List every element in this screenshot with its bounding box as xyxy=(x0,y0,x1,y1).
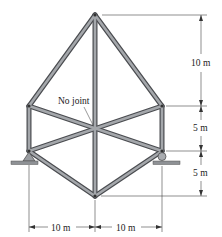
truss-members xyxy=(29,15,162,196)
joint-upper-left xyxy=(27,104,30,107)
truss-diagram: No joint 10 m 5 m 5 m xyxy=(0,0,222,237)
no-joint-label: No joint xyxy=(58,96,90,106)
joint-upper-right xyxy=(160,104,163,107)
dim-label-10m-right: 10 m xyxy=(116,223,136,233)
dim-label-5m-middle: 5 m xyxy=(193,123,208,133)
dim-label-10m-left: 10 m xyxy=(51,223,71,233)
joint-bottom xyxy=(93,194,96,197)
dim-label-5m-bottom: 5 m xyxy=(193,168,208,178)
dim-label-10m-top: 10 m xyxy=(191,58,211,68)
joint-apex xyxy=(93,13,96,16)
joint-lower-right xyxy=(160,149,163,152)
